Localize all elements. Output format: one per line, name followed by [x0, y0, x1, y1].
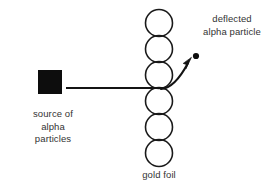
alpha-source-label: source of alpha particles [6, 108, 100, 146]
gold-foil-atom-1 [146, 10, 173, 37]
deflected-label-line-2: alpha particle [188, 26, 276, 39]
source-label-line-2: alpha [6, 121, 100, 134]
gold-foil-label: gold foil [118, 169, 200, 182]
gold-foil-atom-5 [146, 114, 173, 141]
gold-foil-atom-4 [146, 88, 173, 115]
alpha-particle-dot [193, 53, 199, 59]
gold-foil-atom-3 [146, 62, 173, 89]
gold-foil-atom-6 [146, 140, 173, 167]
deflected-label-line-1: deflected [188, 13, 276, 26]
gold-foil-label-text: gold foil [118, 169, 200, 182]
deflected-alpha-particle-label: deflected alpha particle [188, 13, 276, 38]
source-label-line-3: particles [6, 133, 100, 146]
deflected-alpha-path [161, 63, 188, 89]
alpha-source-block [38, 70, 62, 94]
rutherford-gold-foil-diagram: deflected alpha particle source of alpha… [0, 0, 277, 190]
deflected-arrowhead-icon [183, 57, 191, 68]
source-label-line-1: source of [6, 108, 100, 121]
gold-foil-atom-2 [146, 36, 173, 63]
